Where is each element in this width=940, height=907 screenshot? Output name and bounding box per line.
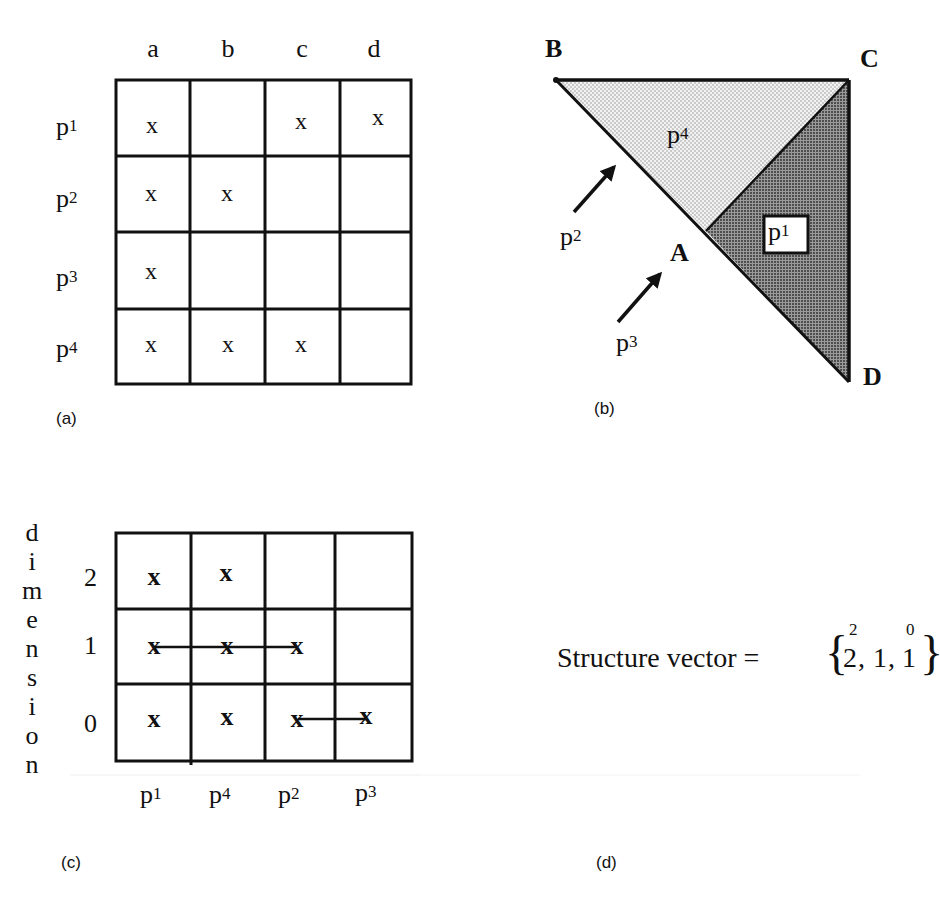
dimension-label-0: 0 (84, 709, 97, 739)
cell-mark: x (137, 112, 167, 139)
cell-mark: x (212, 702, 242, 732)
arrow-label-p2: p2 (560, 222, 582, 252)
column-label-p1: p1 (140, 780, 162, 810)
column-label-p2: p2 (278, 780, 300, 810)
row-label-p2: p2 (56, 184, 78, 214)
row-label-p3: p3 (56, 263, 78, 293)
cell-mark: x (136, 180, 166, 207)
cell-mark: x (211, 558, 241, 588)
cell-mark: x (212, 631, 242, 661)
dimension-label-2: 2 (84, 563, 97, 593)
caption-b: (b) (594, 399, 615, 419)
column-label-p4: p4 (209, 780, 231, 810)
dimension-label-1: 1 (84, 631, 97, 661)
column-label-p3: p3 (355, 778, 377, 808)
simplicial-complex-b (553, 77, 849, 382)
arrow-label-p3: p3 (616, 328, 638, 358)
cell-mark: x (212, 180, 242, 207)
cell-mark: x (286, 331, 316, 358)
y-axis-label-dimension: d i m e n s i o n (22, 518, 42, 779)
cell-mark: x (286, 108, 316, 135)
separator: , (858, 642, 865, 674)
entry-superscript: 0 (906, 620, 915, 640)
row-label-p4: p4 (56, 334, 78, 364)
column-label: c (282, 34, 322, 64)
separator: , (888, 642, 895, 674)
vertex-label-c: C (860, 44, 879, 74)
cell-mark: x (282, 631, 312, 661)
cell-mark: x (139, 631, 169, 661)
arrow-p2 (574, 167, 614, 212)
entry-value: 1 (902, 642, 916, 674)
cell-mark: x (282, 704, 312, 734)
row-label-p1: p1 (56, 112, 78, 142)
brace-close: } (920, 629, 940, 677)
entry-value: 2 (843, 642, 857, 674)
structure-vector-label: Structure vector = (557, 642, 759, 674)
caption-c: (c) (61, 853, 81, 873)
column-label: a (133, 34, 173, 64)
cell-mark: x (351, 701, 381, 731)
cell-mark: x (139, 704, 169, 734)
vertex-label-b: B (545, 34, 562, 64)
cell-mark: x (136, 331, 166, 358)
region-label-p1: p1 (768, 217, 790, 247)
region-label-p4: p4 (667, 120, 689, 150)
arrow-p3 (618, 274, 660, 322)
cell-mark: x (363, 104, 393, 131)
vertex-label-a: A (670, 238, 689, 268)
entry-superscript: 2 (849, 620, 858, 640)
caption-d: (d) (596, 853, 617, 873)
entry-value: 1 (873, 642, 887, 674)
column-label: b (208, 34, 248, 64)
vertex-label-d: D (863, 362, 882, 392)
cell-mark: x (139, 562, 169, 592)
cell-mark: x (136, 258, 166, 285)
column-label: d (354, 34, 394, 64)
cell-mark: x (213, 331, 243, 358)
caption-a: (a) (56, 409, 77, 429)
